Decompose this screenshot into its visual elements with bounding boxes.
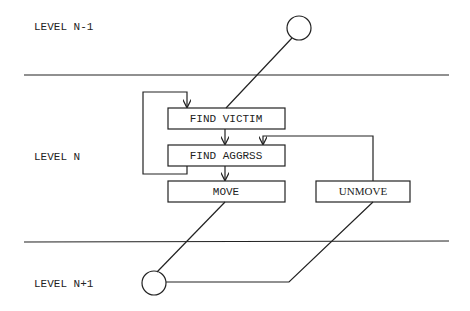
move-box: MOVE [168,181,285,202]
unmove-label: UNMOVE [339,185,388,197]
level-divider-bottom [24,241,449,242]
level-label-n-minus-1: LEVEL N-1 [34,21,94,33]
find-aggressor-box: FIND AGGRSS [168,145,285,166]
child-node-circle [142,271,166,295]
parent-node-circle [287,16,311,40]
unmove-box: UNMOVE [316,181,410,202]
edge-parent-to-find-victim [226,38,292,108]
search-tree-diagram: LEVEL N-1 LEVEL N LEVEL N+1 FIND VICTIM … [0,0,470,311]
edge-unmove-to-aggressor [263,136,373,181]
find-aggressor-label: FIND AGGRSS [190,150,263,162]
loop-aggressor-to-victim [143,92,187,174]
edge-move-to-child [157,202,225,272]
level-label-n-plus-1: LEVEL N+1 [34,278,94,290]
move-label: MOVE [213,186,240,198]
find-victim-box: FIND VICTIM [168,108,285,129]
find-victim-label: FIND VICTIM [190,113,263,125]
level-label-n: LEVEL N [34,151,80,163]
